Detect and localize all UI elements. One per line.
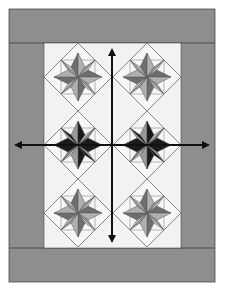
quilt-diagram (0, 0, 225, 293)
